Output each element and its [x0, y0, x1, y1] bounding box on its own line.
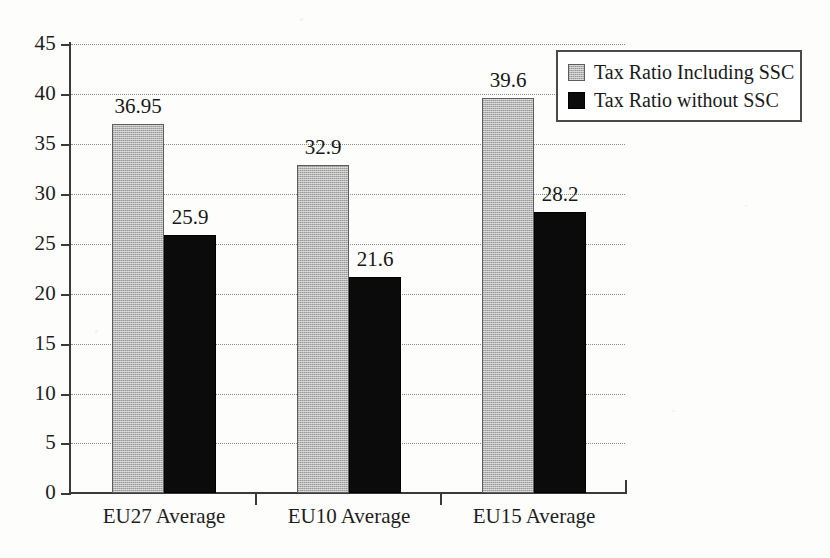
y-axis-label-5: 5 [0, 432, 56, 453]
y-tick-45 [61, 44, 71, 46]
legend-label-without-ssc: Tax Ratio without SSC [594, 89, 779, 111]
bar-eu10-including-ssc[interactable] [297, 165, 349, 493]
paper-speckle [95, 330, 98, 333]
legend-label-including-ssc: Tax Ratio Including SSC [594, 61, 794, 83]
paper-speckle [745, 205, 747, 207]
y-axis-label-10: 10 [0, 383, 56, 404]
x-axis-label-eu27: EU27 Average [79, 504, 249, 528]
x-axis-end-tick [625, 480, 627, 494]
bar-value-eu27-without-ssc: 25.9 [150, 207, 230, 228]
legend-item-without-ssc[interactable]: Tax Ratio without SSC [568, 86, 792, 114]
y-tick-5 [61, 443, 71, 445]
y-axis-label-35: 35 [0, 133, 56, 154]
legend-item-including-ssc[interactable]: Tax Ratio Including SSC [568, 58, 792, 86]
y-axis-label-15: 15 [0, 333, 56, 354]
bar-eu10-without-ssc[interactable] [349, 277, 401, 493]
bar-value-eu27-including-ssc: 36.95 [98, 96, 178, 117]
bar-value-eu15-without-ssc: 28.2 [520, 184, 600, 205]
y-axis-label-20: 20 [0, 283, 56, 304]
x-axis-label-eu10: EU10 Average [264, 504, 434, 528]
x-tick-0 [255, 492, 257, 505]
bar-value-eu10-including-ssc: 32.9 [283, 137, 363, 158]
gridline-45 [71, 44, 625, 45]
y-axis-label-25: 25 [0, 233, 56, 254]
y-tick-15 [61, 344, 71, 346]
y-axis-line [69, 42, 71, 495]
y-tick-40 [61, 94, 71, 96]
y-tick-35 [61, 144, 71, 146]
bar-eu15-without-ssc[interactable] [534, 212, 586, 493]
y-tick-0 [61, 493, 71, 495]
bar-value-eu15-including-ssc: 39.6 [468, 70, 548, 91]
y-axis-label-30: 30 [0, 183, 56, 204]
paper-speckle [672, 410, 675, 412]
legend-swatch-black-icon [568, 92, 585, 109]
y-axis-label-45: 45 [0, 33, 56, 54]
y-tick-10 [61, 394, 71, 396]
legend-swatch-gray-icon [568, 64, 585, 81]
x-tick-1 [440, 492, 442, 505]
bar-chart: 45 40 35 30 25 20 15 10 5 0 36.95 25.9 3… [0, 0, 830, 558]
bar-eu27-including-ssc[interactable] [112, 124, 164, 493]
paper-speckle [300, 18, 303, 21]
y-tick-25 [61, 244, 71, 246]
y-tick-20 [61, 294, 71, 296]
bar-eu15-including-ssc[interactable] [482, 98, 534, 493]
y-axis-label-0: 0 [0, 482, 56, 503]
y-axis-label-40: 40 [0, 83, 56, 104]
bar-value-eu10-without-ssc: 21.6 [335, 249, 415, 270]
y-tick-30 [61, 194, 71, 196]
chart-legend: Tax Ratio Including SSC Tax Ratio withou… [556, 50, 802, 122]
bar-eu27-without-ssc[interactable] [164, 235, 216, 493]
x-axis-label-eu15: EU15 Average [449, 504, 619, 528]
